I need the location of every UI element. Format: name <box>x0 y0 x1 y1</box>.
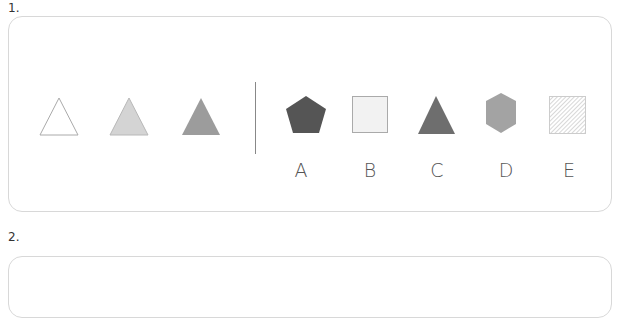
option-a-label: A <box>286 159 316 181</box>
sequence-triangle-light-gray <box>110 97 150 137</box>
option-d-hexagon[interactable] <box>486 93 526 135</box>
sequence-triangle-gray <box>182 97 222 137</box>
option-a-pentagon[interactable] <box>286 96 328 136</box>
option-c-triangle[interactable] <box>418 96 458 136</box>
divider-line <box>255 82 256 154</box>
option-d-label: D <box>491 159 521 181</box>
option-c-label: C <box>422 159 452 181</box>
option-b-label: B <box>355 159 385 181</box>
question-2-number: 2. <box>8 230 19 244</box>
option-e-hatched-square[interactable] <box>549 96 589 136</box>
sequence-triangle-white <box>40 97 80 137</box>
option-b-square[interactable] <box>352 96 390 134</box>
question-1-number: 1. <box>8 1 19 15</box>
question-2-panel <box>8 256 612 318</box>
option-e-label: E <box>554 159 584 181</box>
